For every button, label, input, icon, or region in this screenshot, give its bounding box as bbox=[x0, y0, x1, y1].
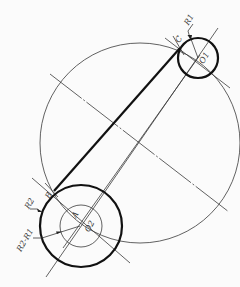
radius-line-c-o1 bbox=[165, 38, 230, 88]
label-c: C bbox=[174, 34, 185, 44]
diagram-canvas: R1 C O1 B R2 A O2 R2-R1 bbox=[0, 0, 240, 287]
label-r2-minus-r1: R2-R1 bbox=[15, 227, 36, 254]
tangent-line-bc bbox=[54, 48, 180, 191]
label-r1: R1 bbox=[182, 13, 196, 28]
r1-radius-line bbox=[191, 39, 198, 58]
line-o1-a bbox=[63, 55, 200, 248]
tangent-construction-diagram: R1 C O1 B R2 A O2 R2-R1 bbox=[0, 0, 240, 287]
label-o1: O1 bbox=[198, 51, 212, 66]
